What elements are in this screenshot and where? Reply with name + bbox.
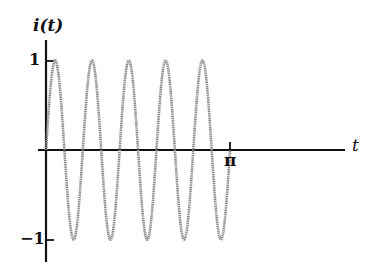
x-tick-label-pi: π [224, 152, 236, 169]
y-tick-label-neg1: −1 [20, 231, 45, 247]
x-axis-label: t [352, 137, 359, 154]
sine-wave-chart [0, 0, 369, 272]
y-tick-label-1: 1 [29, 52, 40, 68]
y-axis-label: i(t) [33, 17, 63, 34]
